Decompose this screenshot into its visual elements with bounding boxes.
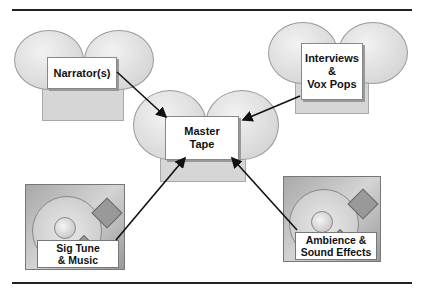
arrow-ambience-to-master xyxy=(232,158,297,230)
arrow-narrators-to-master xyxy=(117,72,166,117)
arrow-interviews-to-master xyxy=(243,96,300,120)
connectors xyxy=(0,0,424,293)
arrow-sig-tune-to-master xyxy=(116,158,185,240)
